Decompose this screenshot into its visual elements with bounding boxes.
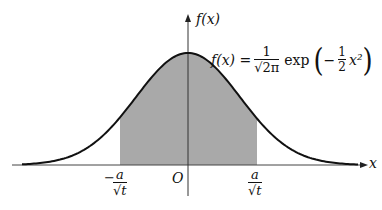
coef-den: √2π (254, 60, 279, 75)
inner-sign: − (324, 52, 336, 68)
left-bound-num: a (116, 168, 124, 182)
exp-func: exp (284, 52, 309, 68)
right-bound-label: a √t (248, 168, 262, 198)
y-axis-arrow-icon (185, 14, 191, 22)
inner-var: x² (349, 52, 363, 68)
left-bound-den: √t (113, 183, 127, 198)
x-axis-arrow-icon (360, 162, 368, 168)
inner-fraction: 1 2 (338, 45, 346, 74)
formula-lhs: f(x) = (211, 52, 251, 68)
density-formula: f(x) = 1 √2π exp ( − 1 2 x² ) (211, 44, 373, 75)
y-axis-label: f(x) (196, 12, 220, 26)
inner-num: 1 (338, 45, 346, 59)
coef-fraction: 1 √2π (254, 44, 279, 75)
inner-den: 2 (338, 60, 346, 74)
left-bound-label: a √t (113, 168, 127, 198)
x-axis-label: x (369, 156, 377, 170)
right-bound-den: √t (248, 183, 262, 198)
plot-canvas (0, 0, 382, 210)
right-bound-num: a (251, 168, 259, 182)
coef-num: 1 (263, 44, 271, 59)
origin-label: O (172, 171, 183, 185)
normal-distribution-figure: f(x) x O f(x) = 1 √2π exp ( − 1 2 x² ) −… (0, 0, 382, 210)
